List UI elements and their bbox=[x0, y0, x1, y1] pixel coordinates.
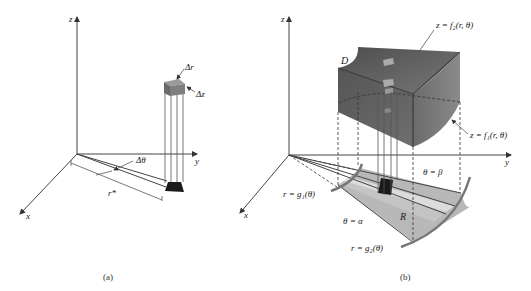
z-label-b: z bbox=[280, 14, 285, 24]
delta-z-label: Δz bbox=[195, 89, 205, 99]
theta-alpha-label: θ = α bbox=[343, 216, 363, 226]
theta-beta-label: θ = β bbox=[423, 167, 443, 177]
x-label-a: x bbox=[25, 211, 30, 221]
r-star-label: r* bbox=[108, 188, 117, 198]
x-axis-a bbox=[20, 154, 77, 214]
region-r-label: R bbox=[399, 211, 406, 222]
base-area-element bbox=[165, 182, 184, 192]
panel-b: z y x bbox=[240, 14, 511, 282]
outer-curve-label: r = g₂(θ) bbox=[351, 243, 383, 253]
delta-z-pointer bbox=[187, 87, 195, 92]
caption-a: (a) bbox=[103, 272, 113, 282]
z-label-a: z bbox=[68, 14, 73, 24]
d-label: D bbox=[340, 55, 349, 66]
delta-theta-pointer-2 bbox=[96, 171, 112, 175]
bottom-surface-label: z = f₁(r, θ) bbox=[469, 130, 507, 140]
y-label-a: y bbox=[194, 156, 199, 166]
diagram-canvas: z y x r* Δθ Δr Δz (a) bbox=[0, 0, 531, 291]
delta-theta-label: Δθ bbox=[135, 155, 146, 165]
figure: z y x r* Δθ Δr Δz (a) bbox=[0, 0, 531, 291]
x-label-b: x bbox=[243, 210, 248, 220]
volume-element-box bbox=[164, 79, 185, 96]
x-axis-b bbox=[240, 155, 289, 213]
panel-a: z y x r* Δθ Δr Δz (a) bbox=[20, 14, 205, 282]
caption-b: (b) bbox=[400, 272, 411, 282]
solid-d bbox=[338, 47, 460, 147]
delta-r-label: Δr bbox=[184, 62, 194, 72]
top-surface-label: z = f₂(r, θ) bbox=[435, 20, 473, 30]
delta-r-pointer bbox=[177, 69, 184, 79]
inner-curve-label: r = g₁(θ) bbox=[283, 189, 315, 199]
ray-a-1 bbox=[77, 154, 167, 181]
top-surface-pointer bbox=[420, 30, 434, 50]
y-label-b: y bbox=[504, 157, 509, 167]
